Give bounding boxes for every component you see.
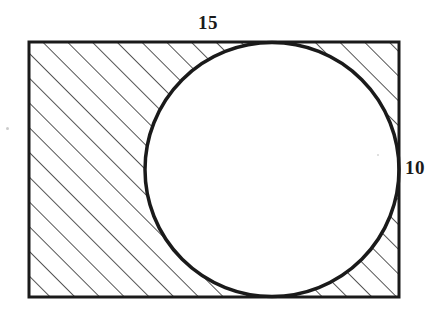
- height-label: 10: [405, 158, 425, 177]
- width-label: 15: [198, 13, 218, 32]
- geometry-diagram: [0, 0, 426, 310]
- figure-canvas: 15 10: [0, 0, 426, 310]
- scan-artifact-speck: [377, 154, 379, 156]
- scan-artifact-speck: [6, 127, 9, 130]
- hatched-region: [0, 0, 426, 310]
